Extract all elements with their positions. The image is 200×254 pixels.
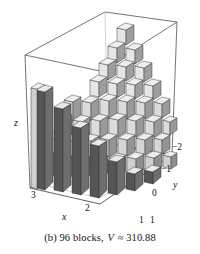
figure-container: 3 2 1 1 0 −1 −2 z x y (b) 96 blocks, V ≈… xyxy=(0,0,200,254)
riemann-sum-3d-plot: 3 2 1 1 0 −1 −2 z x y xyxy=(0,0,200,232)
caption-prefix: (b) xyxy=(44,232,57,243)
x-tick-1: 1 xyxy=(139,215,144,225)
figure-caption: (b) 96 blocks, V ≈ 310.88 xyxy=(0,232,200,243)
z-axis-label: z xyxy=(13,117,18,128)
x-axis-label: x xyxy=(61,211,67,222)
box-edge-left xyxy=(25,55,30,188)
y-axis-label: y xyxy=(172,179,178,190)
y-tick-neg1: −1 xyxy=(161,164,171,174)
caption-variable: V xyxy=(106,232,115,243)
y-tick-neg2: −2 xyxy=(172,142,182,152)
y-tick-0: 0 xyxy=(152,188,157,198)
y-tick-1: 1 xyxy=(150,215,155,225)
caption-blocks: 96 blocks, xyxy=(60,232,104,243)
box-edge-right xyxy=(172,22,177,155)
x-tick-2: 2 xyxy=(85,203,90,213)
block-stack xyxy=(31,23,177,198)
caption-value: ≈ 310.88 xyxy=(118,232,156,243)
x-tick-3: 3 xyxy=(31,190,36,200)
block-column-group-far xyxy=(90,23,161,100)
